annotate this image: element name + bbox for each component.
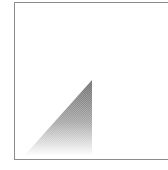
- canvas: [0, 0, 168, 170]
- triangle-icon: [0, 0, 168, 170]
- triangle-dither-overlay: [24, 80, 92, 156]
